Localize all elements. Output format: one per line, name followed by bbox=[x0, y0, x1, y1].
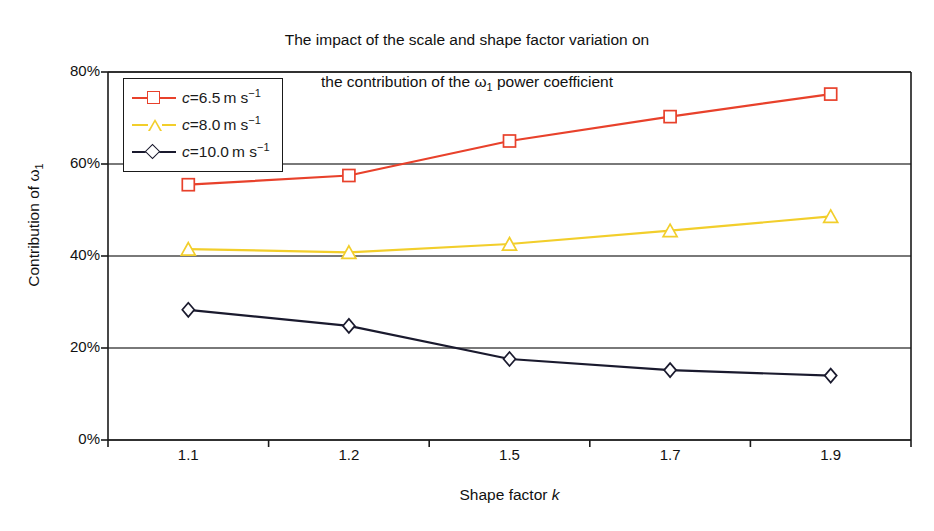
legend-unit-0: m s bbox=[223, 90, 248, 107]
legend-exp-0: −1 bbox=[248, 87, 261, 99]
data-point-square bbox=[825, 88, 837, 100]
chart-legend: c=6.5m s−1 c=8.0m s−1 c=10.0m s−1 bbox=[123, 78, 283, 172]
legend-var-2: c bbox=[182, 144, 190, 161]
legend-symbol-triangle bbox=[132, 116, 176, 134]
data-point-diamond bbox=[343, 319, 355, 333]
legend-eq-1: = bbox=[190, 117, 199, 134]
legend-var-1: c bbox=[182, 117, 190, 134]
data-point-square bbox=[343, 170, 355, 182]
data-point-diamond bbox=[664, 363, 676, 377]
legend-var-0: c bbox=[182, 90, 190, 107]
legend-item-2[interactable]: c=10.0m s−1 bbox=[132, 138, 270, 165]
legend-eq-2: = bbox=[190, 144, 199, 161]
data-point-diamond bbox=[825, 369, 837, 383]
data-point-square bbox=[504, 135, 516, 147]
legend-unit-2: m s bbox=[232, 144, 257, 161]
legend-label-1: c=8.0m s−1 bbox=[182, 114, 261, 134]
legend-item-0[interactable]: c=6.5m s−1 bbox=[132, 84, 270, 111]
data-point-diamond bbox=[504, 352, 516, 366]
data-point-square bbox=[182, 179, 194, 191]
legend-item-1[interactable]: c=8.0m s−1 bbox=[132, 111, 270, 138]
legend-label-0: c=6.5m s−1 bbox=[182, 87, 261, 107]
legend-symbol-diamond bbox=[132, 143, 176, 161]
legend-exp-1: −1 bbox=[248, 114, 261, 126]
legend-label-2: c=10.0m s−1 bbox=[182, 141, 270, 161]
legend-exp-2: −1 bbox=[257, 141, 270, 153]
legend-value-1: 8.0 bbox=[199, 117, 221, 134]
legend-unit-1: m s bbox=[223, 117, 248, 134]
legend-eq-0: = bbox=[190, 90, 199, 107]
legend-value-2: 10.0 bbox=[199, 144, 229, 161]
legend-symbol-square bbox=[132, 89, 176, 107]
legend-value-0: 6.5 bbox=[199, 90, 221, 107]
data-point-diamond bbox=[182, 303, 194, 317]
chart-figure: The impact of the scale and shape factor… bbox=[0, 0, 934, 531]
data-point-square bbox=[664, 111, 676, 123]
